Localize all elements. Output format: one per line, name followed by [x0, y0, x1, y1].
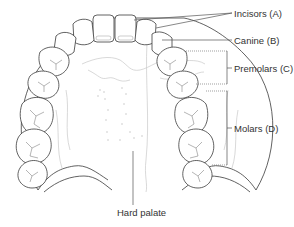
molars	[16, 97, 214, 188]
label-molars: Molars (D)	[234, 123, 278, 134]
label-hard-palate: Hard palate	[117, 207, 166, 218]
label-canine: Canine (B)	[234, 35, 279, 46]
label-incisors: Incisors (A)	[234, 8, 282, 19]
dental-arch-diagram: Incisors (A) Canine (B) Premolars (C) Mo…	[0, 0, 294, 227]
premolars	[28, 47, 198, 98]
label-premolars: Premolars (C)	[234, 63, 293, 74]
